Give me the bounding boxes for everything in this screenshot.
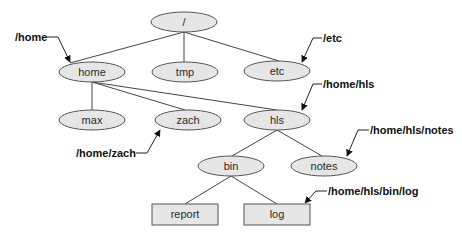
node-label-max: max <box>82 114 103 126</box>
node-tmp: tmp <box>152 62 218 82</box>
callout-arrow-zach <box>136 130 160 153</box>
node-max: max <box>59 110 125 130</box>
node-etc: etc <box>244 61 310 81</box>
edge-home-zach <box>92 82 185 110</box>
edge-root-etc <box>184 32 279 61</box>
node-bin: bin <box>198 156 264 176</box>
directory-tree-diagram: / home tmp etc max zach hls bin notes re… <box>0 0 462 239</box>
edge-home-hls <box>92 82 277 110</box>
callout-arrow-notes <box>347 130 369 156</box>
node-label-notes: notes <box>311 160 338 172</box>
callout-label-etc: /etc <box>323 32 342 44</box>
node-report: report <box>152 204 218 225</box>
callout-label-zach: /home/zach <box>76 147 136 159</box>
callout-etc: /etc <box>302 32 342 62</box>
node-notes: notes <box>291 156 357 176</box>
callout-arrow-log <box>305 191 327 203</box>
node-log: log <box>244 204 310 225</box>
callout-notes: /home/hls/notes <box>347 124 454 156</box>
node-hls: hls <box>244 110 310 130</box>
callout-home: /home <box>15 31 70 62</box>
node-home: home <box>59 62 125 82</box>
edge-hls-bin <box>232 130 277 156</box>
edge-bin-report <box>185 176 231 204</box>
node-label-log: log <box>270 208 285 220</box>
edge-bin-log <box>231 176 277 204</box>
callout-arrow-hls <box>302 84 322 110</box>
callout-label-notes: /home/hls/notes <box>370 124 454 136</box>
node-root: / <box>151 12 217 32</box>
node-label-report: report <box>171 208 200 220</box>
edge-root-home <box>70 32 184 63</box>
node-label-zach: zach <box>176 114 199 126</box>
edge-hls-notes <box>277 130 322 156</box>
callout-log: /home/hls/bin/log <box>305 185 418 203</box>
callout-zach: /home/zach <box>76 130 160 159</box>
callout-label-hls: /home/hls <box>323 78 374 90</box>
node-zach: zach <box>155 110 221 130</box>
node-label-etc: etc <box>270 65 285 77</box>
callout-arrow-home <box>47 37 70 62</box>
node-label-home: home <box>78 66 106 78</box>
node-label-tmp: tmp <box>176 66 194 78</box>
node-label-bin: bin <box>224 160 239 172</box>
callout-hls: /home/hls <box>302 78 374 110</box>
node-label-hls: hls <box>270 114 285 126</box>
callout-arrow-etc <box>302 38 322 62</box>
callout-label-log: /home/hls/bin/log <box>328 185 418 197</box>
callout-label-home: /home <box>15 31 47 43</box>
